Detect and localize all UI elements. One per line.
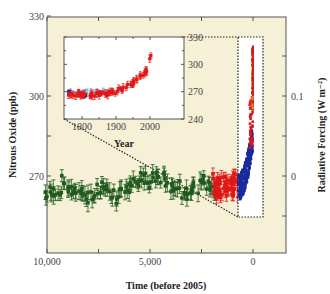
series-modern-spike (251, 45, 254, 109)
nitrous-oxide-chart: 180019002000240270300330 Year 10,0005,00… (0, 0, 330, 294)
y2-axis-title: Radiative Forcing (W m⁻²) (316, 78, 328, 193)
inset-x-tick-label: 2000 (140, 121, 160, 132)
y-tick-label: 330 (29, 11, 44, 22)
x-tick-label: 10,000 (33, 256, 61, 267)
y2-tick-label: 0 (291, 171, 296, 182)
inset-plot-area (64, 37, 184, 119)
y2-tick-label: 0.1 (291, 91, 304, 102)
x-tick-label: 5,000 (139, 256, 162, 267)
inset-x-tick-label: 1900 (106, 121, 126, 132)
inset-y-tick-label: 270 (188, 86, 203, 97)
x-axis-title: Time (before 2005) (126, 280, 207, 292)
inset-y-tick-label: 240 (188, 114, 203, 125)
y-axis-title: Nitrous Oxide (ppb) (7, 92, 19, 178)
inset-y-tick-label: 330 (188, 32, 203, 43)
y-tick-label: 300 (29, 91, 44, 102)
inset-x-tick-label: 1800 (72, 121, 92, 132)
y-tick-label: 270 (29, 171, 44, 182)
inset-x-axis-title: Year (114, 138, 135, 149)
inset-y-tick-label: 300 (188, 59, 203, 70)
x-tick-label: 0 (251, 256, 256, 267)
